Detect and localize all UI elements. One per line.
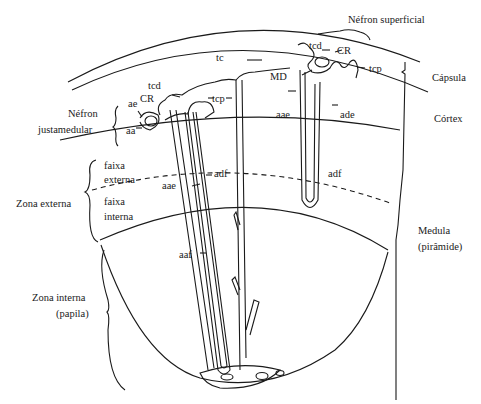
right-bracket xyxy=(396,62,405,400)
label-capsula: Cápsula xyxy=(432,72,466,84)
label-nefron: Néfron xyxy=(68,108,98,120)
label-md: MD xyxy=(270,71,287,83)
outer-band-boundary xyxy=(92,173,390,203)
label-medula: Medula xyxy=(418,225,450,237)
label-adf-left: adf xyxy=(214,168,227,180)
zona-interna-bracket xyxy=(102,250,125,390)
label-externa: externa xyxy=(104,174,135,186)
label-interna: interna xyxy=(104,211,133,223)
juxtamedullary-loop-inner xyxy=(188,112,227,368)
superficial-nephron-loop-inner xyxy=(305,72,315,202)
label-cortex: Córtex xyxy=(434,113,463,125)
zona-externa-bracket xyxy=(85,160,98,242)
label-papila: (papila) xyxy=(56,308,89,320)
label-aa: aa xyxy=(126,125,135,137)
label-tcd-right: tcd xyxy=(309,40,322,52)
label-faixa-externa: faixa xyxy=(104,160,125,172)
label-ae: ae xyxy=(128,98,137,110)
label-tcp-left: tcp xyxy=(212,93,225,105)
label-piramide: (pirâmide) xyxy=(418,241,462,253)
label-faixa-interna: faixa xyxy=(104,196,125,208)
label-zona-externa: Zona externa xyxy=(16,198,71,210)
label-aaf: aaf xyxy=(179,249,192,261)
justamedular-bracket xyxy=(113,106,118,146)
label-tcd-left: tcd xyxy=(148,80,161,92)
label-zona-interna: Zona interna xyxy=(32,292,85,304)
label-justamedular: justamedular xyxy=(38,124,92,136)
label-tc: tc xyxy=(216,52,224,64)
label-tcp-right: tcp xyxy=(369,63,382,75)
label-adf-right: adf xyxy=(328,168,341,180)
collecting-duct xyxy=(236,80,246,370)
vasa-recta-left xyxy=(170,110,214,370)
kidney-nephron-diagram xyxy=(0,0,481,404)
label-aae-left: aae xyxy=(162,180,176,192)
superficial-nephron-loop-outer xyxy=(300,70,320,208)
label-aae-top: aae xyxy=(276,109,290,121)
label-cr-left: CR xyxy=(140,93,154,105)
label-nefron-superficial: Néfron superficial xyxy=(348,14,425,26)
label-cr-right: CR xyxy=(337,45,351,57)
label-ade: ade xyxy=(340,109,355,121)
